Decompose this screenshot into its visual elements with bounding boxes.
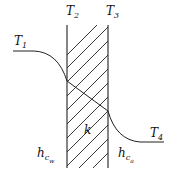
label-t4: T4 bbox=[150, 127, 163, 142]
label-t2: T2 bbox=[66, 5, 79, 20]
label-t1: T1 bbox=[14, 35, 27, 50]
wall-hatch bbox=[67, 15, 108, 180]
label-k-conductivity: k bbox=[84, 124, 91, 136]
label-t3: T3 bbox=[106, 5, 119, 20]
label-hcw: hcw bbox=[37, 147, 54, 164]
label-hca: hca bbox=[118, 147, 134, 164]
diagram-canvas bbox=[0, 0, 172, 180]
